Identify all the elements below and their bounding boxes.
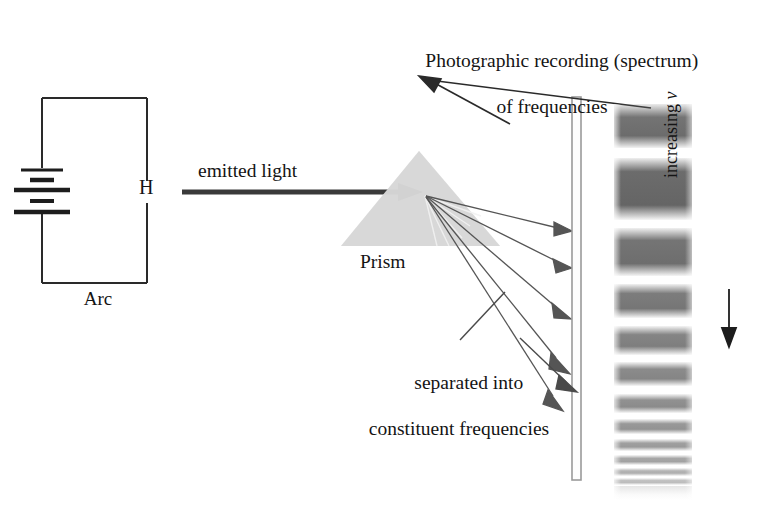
spectrum-left-edge-shade — [614, 104, 621, 504]
spectrum-band — [614, 228, 692, 276]
figure-title-line-2: of frequencies — [352, 95, 752, 118]
battery-symbol — [14, 170, 70, 212]
separated-line-2: constituent frequencies — [330, 417, 588, 440]
spectrum-band — [614, 362, 692, 386]
prism-label: Prism — [360, 250, 406, 273]
nu-symbol: ν — [661, 92, 681, 100]
prism-shape — [341, 151, 500, 246]
increasing-frequency-text: increasing — [661, 100, 681, 178]
increasing-frequency-label: increasing ν — [661, 28, 682, 178]
spectrum-band — [614, 394, 692, 413]
figure-title: Photographic recording (spectrum) of fre… — [352, 26, 752, 164]
spectrum-apparatus-figure: Photographic recording (spectrum) of fre… — [0, 0, 783, 516]
spectrum-band — [614, 284, 692, 318]
spectrum-band — [614, 478, 692, 485]
spectrum-band — [614, 468, 692, 476]
spectrum-band — [614, 439, 692, 451]
figure-title-line-1: Photographic recording (spectrum) — [425, 50, 698, 71]
emitted-light-label: emitted light — [198, 159, 297, 182]
spectrum-band — [614, 419, 692, 434]
separated-line-1: separated into — [414, 372, 523, 393]
spectrum-band — [614, 455, 692, 465]
arc-label: Arc — [38, 288, 158, 310]
separated-frequencies-label: separated into constituent frequencies — [330, 348, 588, 486]
spectrum-band-edge-fade — [614, 486, 692, 500]
spectrum-band — [614, 326, 692, 355]
hydrogen-source-label: H — [139, 176, 153, 200]
increasing-frequency-arrow — [722, 289, 736, 347]
spectrum-right-edge-shade — [685, 104, 692, 504]
